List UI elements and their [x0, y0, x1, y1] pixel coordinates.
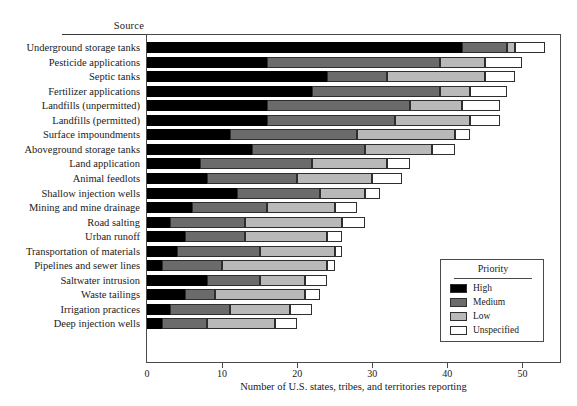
bar-row[interactable]: [147, 42, 545, 53]
bar-segment-medium[interactable]: [312, 86, 440, 97]
bar-segment-unspecified[interactable]: [470, 115, 500, 126]
bar-row[interactable]: [147, 260, 335, 271]
bar-segment-unspecified[interactable]: [485, 71, 515, 82]
bar-segment-medium[interactable]: [230, 129, 358, 140]
bar-segment-low[interactable]: [297, 173, 372, 184]
bar-segment-unspecified[interactable]: [335, 246, 343, 257]
bar-segment-low[interactable]: [222, 260, 327, 271]
bar-segment-high[interactable]: [147, 129, 230, 140]
bar-segment-high[interactable]: [147, 188, 237, 199]
bar-segment-unspecified[interactable]: [275, 318, 298, 329]
bar-segment-high[interactable]: [147, 144, 252, 155]
bar-segment-unspecified[interactable]: [327, 231, 342, 242]
bar-row[interactable]: [147, 231, 342, 242]
bar-segment-high[interactable]: [147, 57, 267, 68]
bar-segment-high[interactable]: [147, 217, 170, 228]
bar-segment-medium[interactable]: [185, 289, 215, 300]
bar-segment-high[interactable]: [147, 173, 207, 184]
bar-segment-unspecified[interactable]: [290, 304, 313, 315]
bar-segment-unspecified[interactable]: [365, 188, 380, 199]
bar-segment-medium[interactable]: [200, 158, 313, 169]
bar-segment-low[interactable]: [312, 158, 387, 169]
bar-segment-high[interactable]: [147, 289, 185, 300]
bar-segment-low[interactable]: [267, 202, 335, 213]
bar-segment-unspecified[interactable]: [327, 260, 335, 271]
bar-row[interactable]: [147, 129, 470, 140]
bar-segment-medium[interactable]: [252, 144, 365, 155]
bar-segment-high[interactable]: [147, 100, 267, 111]
bar-segment-high[interactable]: [147, 318, 162, 329]
bar-segment-high[interactable]: [147, 158, 200, 169]
bar-row[interactable]: [147, 289, 320, 300]
bar-segment-low[interactable]: [215, 289, 305, 300]
bar-row[interactable]: [147, 115, 500, 126]
bar-row[interactable]: [147, 188, 380, 199]
bar-segment-unspecified[interactable]: [462, 100, 500, 111]
bar-segment-high[interactable]: [147, 246, 177, 257]
bar-segment-unspecified[interactable]: [372, 173, 402, 184]
bar-row[interactable]: [147, 173, 402, 184]
bar-row[interactable]: [147, 202, 357, 213]
bar-segment-unspecified[interactable]: [455, 129, 470, 140]
bar-segment-unspecified[interactable]: [387, 158, 410, 169]
bar-row[interactable]: [147, 217, 365, 228]
bar-segment-medium[interactable]: [267, 57, 440, 68]
bar-segment-medium[interactable]: [192, 202, 267, 213]
bar-segment-unspecified[interactable]: [432, 144, 455, 155]
bar-segment-medium[interactable]: [327, 71, 387, 82]
bar-segment-low[interactable]: [245, 231, 328, 242]
bar-segment-high[interactable]: [147, 275, 207, 286]
bar-segment-unspecified[interactable]: [305, 275, 328, 286]
bar-segment-low[interactable]: [260, 246, 335, 257]
bar-segment-high[interactable]: [147, 231, 185, 242]
bar-segment-unspecified[interactable]: [470, 86, 508, 97]
bar-segment-medium[interactable]: [267, 115, 395, 126]
bar-segment-low[interactable]: [260, 275, 305, 286]
bar-segment-high[interactable]: [147, 115, 267, 126]
bar-segment-low[interactable]: [320, 188, 365, 199]
bar-row[interactable]: [147, 86, 507, 97]
bar-segment-unspecified[interactable]: [335, 202, 358, 213]
bar-segment-low[interactable]: [357, 129, 455, 140]
bar-segment-high[interactable]: [147, 260, 162, 271]
bar-segment-low[interactable]: [207, 318, 275, 329]
bar-segment-medium[interactable]: [170, 217, 245, 228]
bar-segment-low[interactable]: [395, 115, 470, 126]
bar-segment-high[interactable]: [147, 304, 170, 315]
bar-segment-high[interactable]: [147, 71, 327, 82]
bar-row[interactable]: [147, 275, 327, 286]
bar-row[interactable]: [147, 71, 515, 82]
bar-segment-medium[interactable]: [162, 318, 207, 329]
bar-row[interactable]: [147, 57, 522, 68]
bar-segment-medium[interactable]: [267, 100, 410, 111]
bar-segment-unspecified[interactable]: [515, 42, 545, 53]
bar-segment-medium[interactable]: [207, 275, 260, 286]
bar-segment-low[interactable]: [387, 71, 485, 82]
bar-row[interactable]: [147, 144, 455, 155]
bar-segment-medium[interactable]: [237, 188, 320, 199]
bar-segment-medium[interactable]: [185, 231, 245, 242]
bar-row[interactable]: [147, 246, 342, 257]
bar-segment-low[interactable]: [230, 304, 290, 315]
bar-segment-low[interactable]: [365, 144, 433, 155]
bar-row[interactable]: [147, 158, 410, 169]
bar-segment-unspecified[interactable]: [342, 217, 365, 228]
bar-segment-low[interactable]: [440, 57, 485, 68]
bar-segment-low[interactable]: [440, 86, 470, 97]
bar-segment-high[interactable]: [147, 42, 462, 53]
bar-segment-low[interactable]: [245, 217, 343, 228]
bar-row[interactable]: [147, 318, 297, 329]
bar-segment-unspecified[interactable]: [305, 289, 320, 300]
bar-segment-medium[interactable]: [207, 173, 297, 184]
bar-segment-low[interactable]: [410, 100, 463, 111]
bar-segment-medium[interactable]: [462, 42, 507, 53]
bar-segment-unspecified[interactable]: [485, 57, 523, 68]
bar-row[interactable]: [147, 100, 500, 111]
bar-row[interactable]: [147, 304, 312, 315]
bar-segment-medium[interactable]: [177, 246, 260, 257]
bar-segment-high[interactable]: [147, 86, 312, 97]
bar-segment-low[interactable]: [507, 42, 515, 53]
bar-segment-medium[interactable]: [162, 260, 222, 271]
bar-segment-high[interactable]: [147, 202, 192, 213]
bar-segment-medium[interactable]: [170, 304, 230, 315]
